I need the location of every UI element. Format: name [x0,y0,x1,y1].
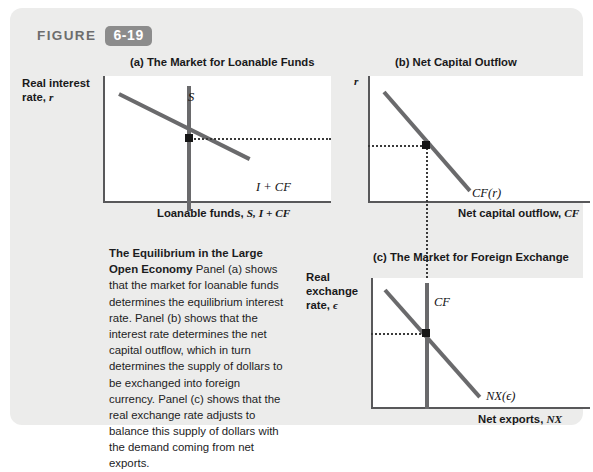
panel-c-x-axis [371,407,590,409]
figure-card: FIGURE 6-19 (a) The Market for Loanable … [10,8,583,425]
panel-b-title: (b) Net Capital Outflow [395,56,517,68]
panel-b-x-axis [368,201,590,203]
figure-label: FIGURE [37,28,96,43]
panel-a-equilibrium-point [185,134,193,142]
panel-b-equilibrium-dotted-vertical [426,145,428,290]
panel-a-x-axis [103,201,331,203]
panel-c-label-cf: CF [434,295,450,310]
figure-header: FIGURE 6-19 [37,26,152,46]
panel-a-label-saving: S [188,90,194,105]
panel-b-label-cf-of-r: CF(r) [472,186,501,201]
panel-c-plot-area [371,278,590,409]
panel-a-y-axis [103,76,105,203]
panel-c-label-net-exports: NX(ϵ) [486,389,515,404]
panel-c-curve-cf [425,283,429,409]
panel-a-label-investment-plus-cf: I + CF [256,180,291,195]
panel-b-equilibrium-point [422,141,430,149]
panel-a-equilibrium-dotted-line [191,138,331,140]
panel-c-equilibrium-dotted-line [371,333,425,335]
panel-a-title: (a) The Market for Loanable Funds [130,56,315,68]
panel-c-equilibrium-point [422,329,430,337]
panel-b-y-axis-label: r [354,74,358,88]
panel-b-plot-area [368,76,590,203]
panel-b-equilibrium-dotted-horizontal [368,145,426,147]
panel-b-x-axis-label: Net capital outflow, CF [458,207,579,219]
panel-c-y-axis [371,278,373,409]
panel-a-y-axis-label: Real interest rate, r [22,76,90,104]
panel-c-y-axis-label: Real exchange rate, ϵ [306,270,358,312]
panel-c-x-axis-label: Net exports, NX [478,413,562,425]
panel-b-y-axis [368,76,370,203]
caption-body: Panel (a) shows that the market for loan… [109,263,283,469]
panel-c-title: (c) The Market for Foreign Exchange [373,251,569,263]
panel-a-x-axis-label: Loanable funds, S, I + CF [157,207,290,219]
figure-caption: The Equilibrium in the Large Open Econom… [109,245,287,472]
figure-number-badge: 6-19 [105,26,151,46]
